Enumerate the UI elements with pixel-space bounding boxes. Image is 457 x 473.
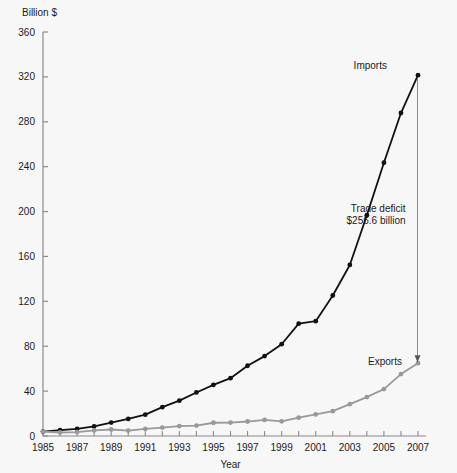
- y-axis-tick-label: 320: [18, 71, 35, 82]
- x-axis-tick-label: 1985: [32, 442, 55, 453]
- data-point-imports: [262, 354, 267, 359]
- y-axis-tick-label: 200: [18, 206, 35, 217]
- x-axis-tick-label: 2005: [373, 442, 396, 453]
- data-point-imports: [399, 111, 404, 116]
- x-axis-title: Year: [220, 459, 241, 470]
- data-point-exports: [382, 387, 387, 392]
- data-point-exports: [160, 425, 165, 430]
- data-point-exports: [58, 430, 63, 435]
- deficit-annotation-line-2: $256.6 billion: [347, 215, 406, 226]
- data-point-exports: [126, 428, 131, 433]
- data-point-exports: [194, 423, 199, 428]
- data-point-imports: [126, 417, 131, 422]
- y-axis-tick-label: 240: [18, 161, 35, 172]
- data-point-imports: [245, 363, 250, 368]
- data-point-imports: [416, 73, 421, 78]
- data-point-exports: [313, 412, 318, 417]
- y-axis-tick-label: 120: [18, 296, 35, 307]
- x-axis-tick-label: 1997: [236, 442, 259, 453]
- exports-label: Exports: [368, 356, 402, 367]
- data-point-exports: [416, 361, 421, 366]
- data-point-exports: [211, 420, 216, 425]
- y-axis-tick-label: 40: [24, 386, 36, 397]
- data-point-exports: [262, 418, 267, 423]
- data-point-imports: [313, 319, 318, 324]
- data-point-imports: [143, 412, 148, 417]
- data-point-imports: [160, 405, 165, 410]
- data-point-imports: [347, 263, 352, 268]
- data-point-exports: [75, 430, 80, 435]
- data-point-exports: [109, 427, 114, 432]
- data-point-imports: [109, 420, 114, 425]
- data-point-exports: [347, 402, 352, 407]
- y-axis-tick-label: 360: [18, 27, 35, 38]
- data-point-exports: [279, 419, 284, 424]
- data-point-exports: [177, 424, 182, 429]
- y-axis-tick-label: 80: [24, 341, 36, 352]
- x-axis-tick-label: 1993: [168, 442, 191, 453]
- data-point-exports: [143, 427, 148, 432]
- x-axis-tick-label: 1995: [202, 442, 225, 453]
- data-point-imports: [330, 293, 335, 298]
- x-axis-tick-label: 2001: [305, 442, 328, 453]
- data-point-imports: [228, 376, 233, 381]
- data-point-exports: [41, 429, 46, 434]
- trade-balance-line-chart: 0408012016020024028032036019851987198919…: [0, 0, 457, 473]
- chart-page: 0408012016020024028032036019851987198919…: [0, 0, 457, 473]
- data-point-imports: [211, 382, 216, 387]
- data-point-imports: [296, 321, 301, 326]
- data-point-exports: [245, 419, 250, 424]
- data-point-exports: [330, 409, 335, 414]
- imports-label: Imports: [354, 60, 387, 71]
- data-point-imports: [177, 398, 182, 403]
- data-point-exports: [92, 428, 97, 433]
- y-axis-tick-label: 280: [18, 116, 35, 127]
- x-axis-tick-label: 1989: [100, 442, 123, 453]
- deficit-arrow-head: [415, 355, 421, 362]
- x-axis-tick-label: 2007: [407, 442, 430, 453]
- data-point-exports: [296, 415, 301, 420]
- data-point-imports: [382, 160, 387, 165]
- y-axis-tick-label: 0: [29, 431, 35, 442]
- data-point-imports: [194, 390, 199, 395]
- data-point-imports: [279, 342, 284, 347]
- data-point-exports: [228, 420, 233, 425]
- x-axis-tick-label: 1987: [66, 442, 89, 453]
- x-axis-tick-label: 1991: [134, 442, 157, 453]
- x-axis-tick-label: 2003: [339, 442, 362, 453]
- x-axis-tick-label: 1999: [271, 442, 294, 453]
- y-axis-title: Billion $: [22, 7, 57, 18]
- data-point-exports: [399, 372, 404, 377]
- data-point-exports: [364, 395, 369, 400]
- y-axis-tick-label: 160: [18, 251, 35, 262]
- deficit-annotation-line-1: Trade deficit: [351, 203, 406, 214]
